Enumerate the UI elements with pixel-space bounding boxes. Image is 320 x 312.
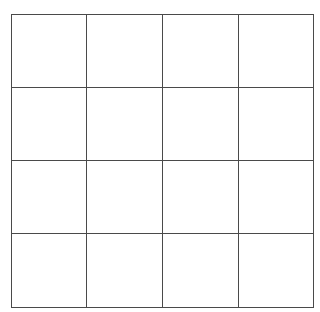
grid-cell-r4-c1[interactable] [11,233,86,307]
grid-line-horizontal [11,14,314,15]
grid-line-horizontal [11,307,314,308]
grid-line-vertical [162,14,163,308]
grid-cell-r4-c2[interactable] [86,233,162,307]
grid-cell-r1-c3[interactable] [162,14,238,87]
grid-line-vertical [11,14,12,308]
grid-line-vertical [313,14,314,308]
grid-cell-r2-c3[interactable] [162,87,238,160]
grid-line-vertical [86,14,87,308]
grid-cell-r4-c3[interactable] [162,233,238,307]
grid-line-horizontal [11,160,314,161]
grid-cell-r1-c4[interactable] [238,14,313,87]
grid-cell-r1-c1[interactable] [11,14,86,87]
grid-cell-r3-c4[interactable] [238,160,313,233]
grid-board [11,14,313,307]
grid-line-horizontal [11,233,314,234]
grid-cell-r2-c1[interactable] [11,87,86,160]
grid-cell-r3-c3[interactable] [162,160,238,233]
grid-cell-r3-c2[interactable] [86,160,162,233]
grid-cell-r3-c1[interactable] [11,160,86,233]
grid-line-horizontal [11,87,314,88]
grid-cell-r2-c4[interactable] [238,87,313,160]
grid-cell-r1-c2[interactable] [86,14,162,87]
grid-line-vertical [238,14,239,308]
grid-cell-r2-c2[interactable] [86,87,162,160]
grid-cell-r4-c4[interactable] [238,233,313,307]
